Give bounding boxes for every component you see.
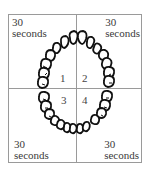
tooth-icon [78, 31, 87, 44]
tooth-icon [38, 77, 48, 88]
tooth-icon [83, 122, 90, 131]
tooth-icon [70, 124, 77, 133]
quadrant-2-number: 2 [82, 72, 88, 84]
tooth-icon [70, 31, 78, 44]
tooth-icon [91, 115, 99, 124]
tooth-icon [61, 36, 69, 48]
tooth-icon [104, 76, 114, 87]
quadrant-1-number: 1 [60, 72, 66, 84]
quadrant-4-number: 4 [82, 94, 88, 106]
dental-arch-illustration [0, 0, 153, 170]
tooth-icon [87, 37, 95, 48]
quadrant-3-number: 3 [61, 94, 67, 106]
